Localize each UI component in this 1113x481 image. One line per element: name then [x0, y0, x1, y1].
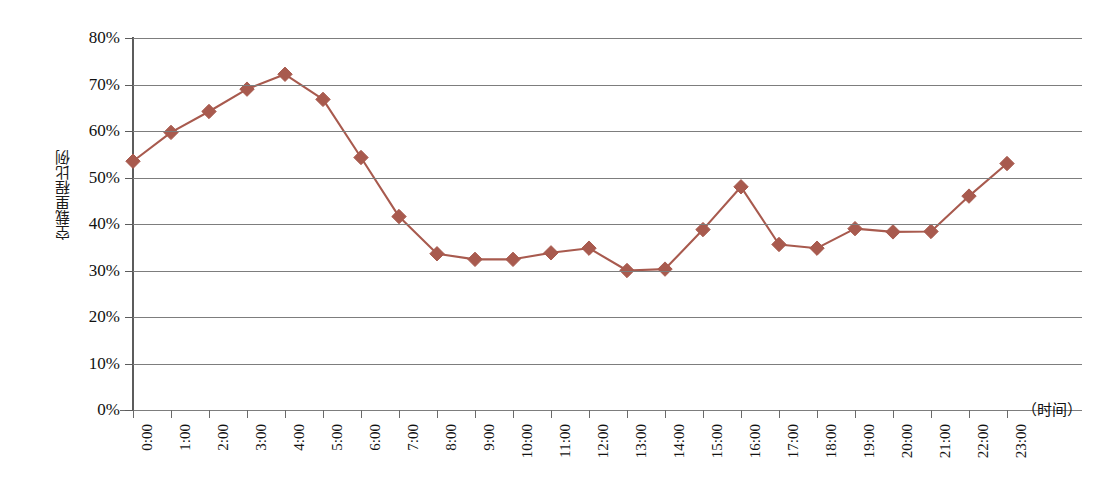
x-tick-mark [931, 410, 932, 418]
data-point-marker [316, 92, 330, 106]
y-tick-label: 0% [68, 400, 120, 420]
gridline [133, 271, 1082, 272]
x-tick-mark [437, 410, 438, 418]
x-tick-label: 16:00 [747, 424, 764, 458]
x-tick-label: 5:00 [329, 424, 346, 451]
data-point-marker [886, 225, 900, 239]
y-tick-mark [125, 85, 133, 86]
x-tick-mark [779, 410, 780, 418]
x-tick-label: 4:00 [291, 424, 308, 451]
x-tick-label: 17:00 [785, 424, 802, 458]
x-tick-mark [247, 410, 248, 418]
gridline [133, 178, 1082, 179]
x-tick-label: 20:00 [899, 424, 916, 458]
x-tick-label: 23:00 [1013, 424, 1030, 458]
data-point-marker [582, 241, 596, 255]
x-tick-mark [741, 410, 742, 418]
y-tick-label: 30% [68, 261, 120, 281]
y-tick-mark [125, 224, 133, 225]
x-tick-label: 14:00 [671, 424, 688, 458]
x-tick-mark [323, 410, 324, 418]
gridline [133, 410, 1082, 411]
y-tick-mark [125, 317, 133, 318]
y-tick-mark [125, 178, 133, 179]
gridline [133, 38, 1082, 39]
x-tick-label: 12:00 [595, 424, 612, 458]
gridline [133, 317, 1082, 318]
gridline [133, 224, 1082, 225]
x-tick-label: 10:00 [519, 424, 536, 458]
x-tick-mark [855, 410, 856, 418]
x-tick-mark [361, 410, 362, 418]
data-point-marker [544, 246, 558, 260]
x-tick-label: 13:00 [633, 424, 650, 458]
gridline [133, 364, 1082, 365]
x-tick-label: 22:00 [975, 424, 992, 458]
data-point-marker [468, 252, 482, 266]
data-point-marker [354, 150, 368, 164]
gridline [133, 131, 1082, 132]
x-tick-mark [893, 410, 894, 418]
x-axis-unit-label: （时间） [1022, 398, 1082, 419]
y-tick-label: 70% [68, 75, 120, 95]
data-point-marker [810, 241, 824, 255]
y-tick-mark [125, 38, 133, 39]
x-tick-mark [969, 410, 970, 418]
y-tick-label: 20% [68, 307, 120, 327]
x-tick-mark [513, 410, 514, 418]
x-tick-mark [209, 410, 210, 418]
x-tick-mark [171, 410, 172, 418]
y-tick-label: 60% [68, 121, 120, 141]
x-tick-mark [285, 410, 286, 418]
data-point-marker [202, 104, 216, 118]
x-tick-label: 3:00 [253, 424, 270, 451]
x-tick-mark [399, 410, 400, 418]
y-tick-label: 10% [68, 354, 120, 374]
gridline [133, 85, 1082, 86]
x-tick-label: 15:00 [709, 424, 726, 458]
x-tick-mark [1007, 410, 1008, 418]
data-point-marker [278, 67, 292, 81]
x-tick-mark [551, 410, 552, 418]
y-tick-mark [125, 364, 133, 365]
x-tick-label: 0:00 [139, 424, 156, 451]
data-point-marker [506, 252, 520, 266]
y-tick-mark [125, 131, 133, 132]
x-tick-label: 18:00 [823, 424, 840, 458]
x-tick-mark [589, 410, 590, 418]
y-tick-label: 40% [68, 214, 120, 234]
y-tick-label: 80% [68, 28, 120, 48]
x-tick-mark [665, 410, 666, 418]
y-axis-tick-labels: 0%10%20%30%40%50%60%70%80% [32, 0, 120, 481]
y-tick-mark [125, 271, 133, 272]
x-tick-label: 8:00 [443, 424, 460, 451]
x-tick-label: 2:00 [215, 424, 232, 451]
x-tick-label: 1:00 [177, 424, 194, 451]
data-point-marker [772, 237, 786, 251]
x-tick-label: 6:00 [367, 424, 384, 451]
x-tick-mark [133, 410, 134, 418]
y-tick-mark [125, 410, 133, 411]
plot-area [133, 38, 1082, 410]
x-tick-mark [817, 410, 818, 418]
x-tick-label: 11:00 [557, 424, 574, 458]
x-tick-mark [627, 410, 628, 418]
chart-container: 空载里程比例 0%10%20%30%40%50%60%70%80% 0:001:… [0, 0, 1113, 481]
x-tick-mark [703, 410, 704, 418]
x-tick-label: 7:00 [405, 424, 422, 451]
x-tick-label: 21:00 [937, 424, 954, 458]
x-tick-mark [475, 410, 476, 418]
series-line [133, 74, 1007, 270]
x-tick-label: 9:00 [481, 424, 498, 451]
x-tick-label: 19:00 [861, 424, 878, 458]
y-tick-label: 50% [68, 168, 120, 188]
